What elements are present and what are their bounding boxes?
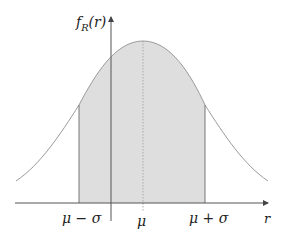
y-axis-label: fR(r) <box>76 15 106 33</box>
x-axis-label: r <box>264 212 270 225</box>
normal-distribution-diagram <box>0 0 284 241</box>
tick-label-mu-plus-sigma: μ + σ <box>189 211 228 225</box>
shaded-one-sigma-region <box>79 41 205 203</box>
tick-label-mu-minus-sigma: μ − σ <box>62 211 101 225</box>
tick-label-mu: μ <box>137 214 146 228</box>
